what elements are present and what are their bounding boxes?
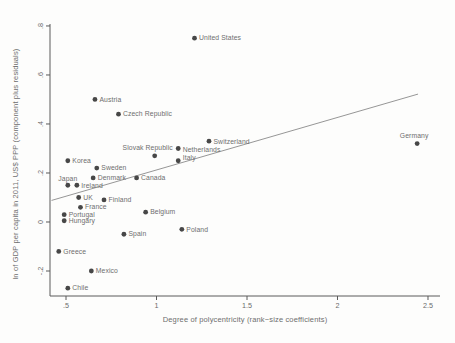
data-point-mexico [89, 269, 94, 274]
x-axis-title: Degree of polycentricity (rank−size coef… [50, 315, 440, 324]
y-axis-title: ln of GDP per capita in 2011, US$ PPP (c… [11, 49, 20, 280]
data-point-spain [122, 232, 127, 237]
point-label-netherlands: Netherlands [183, 146, 221, 153]
x-tick-label: 2 [335, 301, 339, 310]
point-label-mexico: Mexico [96, 267, 118, 274]
point-label-greece: Greece [63, 248, 86, 255]
data-point-portugal [62, 212, 67, 217]
axis-frame [50, 24, 440, 296]
data-point-belgium [143, 210, 148, 215]
data-point-korea [65, 158, 70, 163]
point-label-switzerland: Switzerland [213, 138, 249, 145]
data-point-italy [176, 158, 181, 163]
point-label-poland: Poland [186, 226, 208, 233]
data-point-chile [65, 286, 70, 291]
y-tick-label: -.2 [37, 267, 46, 275]
data-point-sweden [94, 166, 99, 171]
data-point-france [78, 205, 83, 210]
x-tick-label: 2.5 [423, 301, 433, 310]
point-label-chile: Chile [72, 284, 88, 291]
x-tick-label: 1 [155, 301, 159, 310]
y-tick-label: .8 [37, 23, 46, 29]
data-point-czech-republic [116, 112, 121, 117]
data-point-germany [415, 141, 420, 146]
data-point-uk [76, 195, 81, 200]
point-label-united-states: United States [199, 34, 242, 41]
y-tick-label: .4 [37, 121, 46, 127]
data-point-ireland [74, 183, 79, 188]
point-label-czech-republic: Czech Republic [123, 110, 173, 118]
scatter-plot-figure: .8.6.4.20-.2.511.522.5United StatesAustr… [0, 0, 455, 343]
point-label-korea: Korea [72, 157, 91, 164]
y-tick-label: 0 [37, 220, 46, 224]
scatter-chart-canvas: .8.6.4.20-.2.511.522.5United StatesAustr… [0, 0, 455, 343]
data-point-united-states [192, 36, 197, 41]
data-point-slovak-republic [152, 153, 157, 158]
data-point-canada [134, 175, 139, 180]
point-label-italy: Italy [183, 154, 196, 162]
point-label-sweden: Sweden [101, 164, 126, 171]
point-label-uk: UK [83, 194, 93, 201]
data-point-switzerland [207, 139, 212, 144]
data-point-austria [93, 97, 98, 102]
point-label-hungary: Hungary [69, 217, 96, 225]
data-point-finland [102, 198, 107, 203]
point-label-belgium: Belgium [150, 208, 175, 216]
data-point-denmark [91, 175, 96, 180]
data-point-hungary [62, 218, 67, 223]
data-point-greece [56, 249, 61, 254]
x-tick-label: .5 [63, 301, 69, 310]
y-tick-label: .6 [37, 72, 46, 78]
point-label-japan: Japan [58, 175, 77, 183]
point-label-ireland: Ireland [81, 182, 103, 189]
data-point-poland [179, 227, 184, 232]
point-label-denmark: Denmark [98, 174, 127, 181]
point-label-austria: Austria [99, 96, 121, 103]
point-label-finland: Finland [109, 196, 132, 203]
point-label-spain: Spain [128, 230, 146, 238]
data-point-japan [65, 183, 70, 188]
data-point-netherlands [176, 146, 181, 151]
point-label-canada: Canada [141, 174, 166, 181]
x-tick-label: 1.5 [242, 301, 252, 310]
point-label-slovak-republic: Slovak Republic [123, 144, 174, 152]
point-label-france: France [85, 203, 107, 210]
point-label-germany: Germany [400, 132, 429, 140]
y-tick-label: .2 [37, 170, 46, 176]
trend-line [52, 94, 419, 200]
